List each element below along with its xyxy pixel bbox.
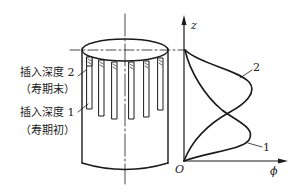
curve-2-label: 2: [253, 61, 260, 74]
z-axis-label: z: [191, 19, 197, 32]
phi-axis-label: ϕ: [270, 165, 278, 178]
leader-curve-1: [248, 143, 262, 147]
label-beginning-of-life: （寿期初）: [20, 124, 75, 137]
graph-axes: [184, 20, 282, 161]
flux-diagram: [0, 0, 302, 194]
phi-axis-arrow-icon: [278, 159, 288, 164]
label-insertion-depth-1: 插入深度 1: [20, 106, 75, 119]
z-axis-arrow-icon: [182, 15, 187, 25]
label-insertion-depth-2: 插入深度 2: [20, 66, 75, 79]
leader-curve-2: [240, 70, 252, 78]
curve-1-label: 1: [263, 141, 270, 154]
label-end-of-life: （寿期末）: [20, 83, 75, 96]
origin-label: O: [175, 163, 184, 176]
